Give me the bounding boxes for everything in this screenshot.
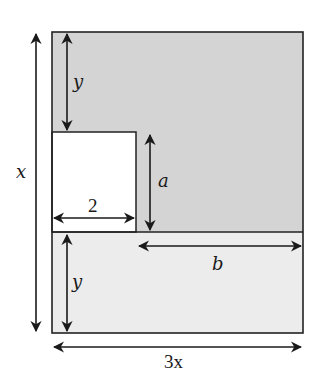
white-cutout [52, 132, 136, 232]
geometry-diagram: x y a 2 b y 3x [0, 0, 317, 385]
label-top-y: y [72, 71, 84, 92]
label-b: b [212, 253, 224, 274]
label-x: x [16, 161, 26, 182]
label-bottom-y: y [71, 271, 83, 292]
label-3x-text: 3x [164, 351, 184, 372]
lower-shaded-strip [52, 232, 303, 333]
label-3x: 3x [164, 351, 184, 372]
label-2: 2 [88, 195, 98, 216]
label-a: a [158, 170, 169, 191]
